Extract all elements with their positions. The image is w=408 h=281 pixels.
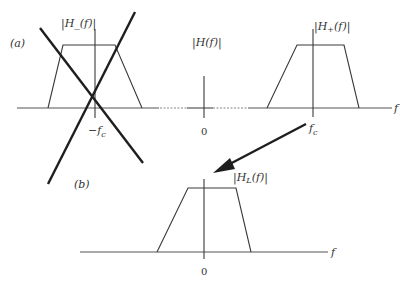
center-zero-label: 0 (201, 126, 207, 137)
filter-frequency-diagram: (a) f |H_(f)| −fc |H(f)| 0 |H+(f)| (0, 0, 408, 281)
lowpass-filter: |HL(f)| 0 (157, 171, 268, 277)
center-origin: |H(f)| 0 (192, 36, 222, 137)
part-b: (b) f |HL(f)| 0 (74, 171, 337, 277)
left-filter: |H_(f)| −fc (40, 12, 143, 184)
fc-tick-label: fc (308, 122, 318, 137)
left-filter-label: |H_(f)| (61, 17, 96, 31)
right-filter: |H+(f)| fc (267, 20, 359, 137)
lowpass-label: |HL(f)| (233, 171, 268, 185)
axis-a-f-label: f (393, 102, 400, 115)
center-label: |H(f)| (192, 36, 222, 50)
lowpass-zero-label: 0 (201, 266, 207, 277)
part-a-label: (a) (10, 37, 25, 50)
neg-fc-tick-label: −fc (88, 124, 106, 139)
arrow-head-icon (213, 158, 235, 173)
shift-arrow (213, 124, 306, 173)
arrow-shaft (226, 124, 306, 166)
part-a: (a) f |H_(f)| −fc |H(f)| 0 |H+(f)| (10, 12, 400, 184)
axis-b-f-label: f (330, 246, 337, 259)
cross-out-line-2 (48, 12, 135, 184)
right-filter-label: |H+(f)| (314, 20, 350, 34)
part-b-label: (b) (74, 178, 90, 191)
